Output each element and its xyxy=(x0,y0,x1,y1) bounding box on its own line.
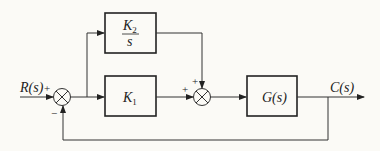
summing-junction-2 xyxy=(194,89,211,106)
k2-denominator: s xyxy=(127,34,133,49)
summing-junction-1: − xyxy=(51,89,71,120)
block-g: G(s) xyxy=(247,76,297,116)
block-k1: K1 xyxy=(105,76,156,116)
output-label: C(s) xyxy=(330,80,354,96)
input-signal: R(s) + xyxy=(19,80,53,97)
k2-numerator: K2 xyxy=(122,18,137,35)
k1-label: K1 xyxy=(122,90,137,107)
signal-to-k2 xyxy=(87,33,104,97)
sum1-plus-sign: + xyxy=(44,82,50,94)
sum2-plus-sign-left: + xyxy=(182,83,188,95)
block-diagram: R(s) + − K2 s K1 + + G(s) C(s xyxy=(0,0,380,151)
sum1-minus-sign: − xyxy=(51,107,57,119)
g-label: G(s) xyxy=(262,90,287,106)
feedback-path xyxy=(63,97,328,140)
input-label: R(s) xyxy=(19,80,44,96)
sum2-plus-sign-top: + xyxy=(192,75,198,87)
block-k2-over-s: K2 s xyxy=(105,13,156,53)
